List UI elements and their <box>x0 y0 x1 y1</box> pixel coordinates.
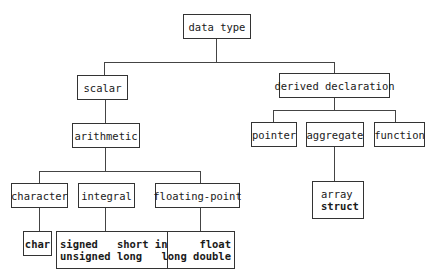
node-arithmetic: arithmetic <box>72 123 140 148</box>
node-integral-types: signed short int unsigned long <box>56 231 175 269</box>
data-type-diagram: data type scalar derived declaration ari… <box>0 0 435 279</box>
node-integral: integral <box>78 183 135 208</box>
aggregate-types-line1: array <box>321 188 353 200</box>
connector <box>39 171 201 172</box>
connector <box>334 97 335 110</box>
connector <box>334 146 335 181</box>
integral-types-line1: signed short int <box>60 238 174 250</box>
float-types-line1: float <box>199 238 231 250</box>
connector <box>273 110 396 111</box>
connector <box>200 171 201 183</box>
connector <box>200 207 201 231</box>
connector <box>39 207 40 231</box>
connector <box>105 207 106 231</box>
node-float-types: float long double <box>167 231 235 269</box>
node-floating-point: floating-point <box>155 183 240 208</box>
aggregate-types-line2: struct <box>321 200 359 212</box>
integral-types-line2: unsigned long <box>60 250 142 262</box>
node-aggregate: aggregate <box>306 122 364 147</box>
connector <box>39 171 40 183</box>
connector <box>105 99 106 123</box>
node-aggregate-types: array struct <box>312 181 364 219</box>
node-character: character <box>11 183 68 208</box>
connector <box>395 110 396 122</box>
node-derived-declaration: derived declaration <box>279 73 390 98</box>
connector <box>104 62 335 63</box>
connector <box>105 147 106 171</box>
node-data-type: data type <box>183 14 251 39</box>
connector <box>216 38 217 62</box>
node-char: char <box>23 231 52 256</box>
connector <box>104 62 105 75</box>
node-pointer: pointer <box>251 122 297 147</box>
connector <box>334 62 335 73</box>
float-types-line2: long double <box>161 250 231 262</box>
node-scalar: scalar <box>77 75 128 100</box>
connector <box>273 110 274 122</box>
node-function: function <box>374 122 425 147</box>
